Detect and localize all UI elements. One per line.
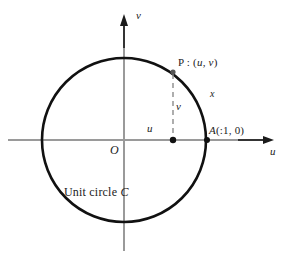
figure-canvas bbox=[0, 0, 292, 261]
unit-circle-figure: v u O P : (u, v) A(:1, 0) x v u Unit cir… bbox=[0, 0, 292, 261]
point-p-label-prefix: P : ( bbox=[178, 56, 197, 68]
v-axis-arrowhead bbox=[120, 14, 128, 26]
point-a-marker bbox=[204, 137, 210, 143]
segment-u-label: u bbox=[147, 123, 153, 134]
point-p-marker bbox=[170, 69, 175, 74]
origin-label: O bbox=[110, 144, 119, 156]
u-axis-label: u bbox=[270, 146, 276, 157]
point-p-label-suffix: ) bbox=[214, 56, 218, 68]
figure-caption-symbol: C bbox=[120, 185, 128, 199]
point-a-label-coords: (:1, 0) bbox=[216, 124, 244, 136]
point-a-label: A(:1, 0) bbox=[209, 125, 244, 136]
v-axis-label: v bbox=[136, 10, 141, 21]
point-p-label: P : (u, v) bbox=[178, 57, 218, 68]
u-axis-arrowhead bbox=[263, 136, 274, 144]
segment-v-label: v bbox=[176, 101, 181, 112]
figure-caption: Unit circle C bbox=[64, 186, 129, 198]
figure-caption-text: Unit circle bbox=[64, 185, 120, 199]
point-a-label-name: A bbox=[209, 124, 216, 136]
arc-length-label: x bbox=[210, 89, 215, 99]
foot-point-marker bbox=[170, 137, 176, 143]
